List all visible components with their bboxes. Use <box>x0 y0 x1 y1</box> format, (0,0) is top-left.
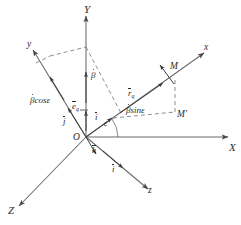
axis-Z-line <box>19 137 86 206</box>
unit-vector-j-label: j <box>63 117 66 126</box>
vector-e-q-sub: q <box>76 106 79 112</box>
vector-diagram-figure: Y X Z x y z O j k i i M M' rq eq βcosε β… <box>0 0 241 225</box>
vector-r-q-base: r <box>128 89 132 98</box>
angle-epsilon-label: ε <box>104 120 107 128</box>
point-M-prime-label: M' <box>177 110 187 120</box>
origin-label-O: O <box>73 133 80 143</box>
unit-vector-k-label: k <box>92 146 96 155</box>
expr-beta-cos-beta: β <box>30 96 34 105</box>
point-M-label: M <box>170 62 178 72</box>
construction-lines <box>36 47 175 118</box>
axis-label-y: y <box>27 40 31 50</box>
unit-vector-i-prime-label: i <box>95 113 98 122</box>
axis-label-Y: Y <box>84 4 90 15</box>
unit-vector-i-label: i <box>112 165 115 174</box>
diagram-canvas <box>0 0 241 225</box>
dashed-y-to-Y <box>50 47 86 56</box>
axis-label-X: X <box>229 142 236 153</box>
axis-label-z: z <box>148 186 152 196</box>
expr-beta-sin-beta: β <box>126 106 130 115</box>
expr-beta-dot-label: β <box>91 71 95 80</box>
expr-beta-sin-rest: sinε <box>130 105 144 115</box>
moving-axis-group <box>33 50 204 189</box>
vector-arrow-group <box>50 65 174 168</box>
vector-i-prime-arrow <box>86 118 112 137</box>
axis-label-Z: Z <box>8 205 14 216</box>
dashed-y-axis-perp <box>36 56 50 63</box>
vector-e-q-base: e <box>72 102 76 111</box>
angle-epsilon-arc <box>112 119 118 137</box>
angle-arc-group <box>112 119 118 137</box>
vector-beta-cos-arrow <box>50 77 64 100</box>
dashed-Y-to-x <box>86 47 121 113</box>
expr-beta-cos-rest: cosε <box>34 95 50 105</box>
axis-label-x: x <box>204 43 208 53</box>
